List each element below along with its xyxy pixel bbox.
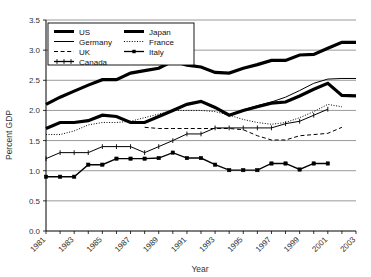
data-point-italy	[213, 163, 216, 166]
y-tick-label: 0.0	[29, 227, 41, 236]
data-point-italy	[129, 157, 132, 160]
y-axis-title: Percent GDP	[4, 110, 14, 160]
data-point-italy	[256, 168, 259, 171]
data-point-italy	[44, 175, 47, 178]
data-point-italy	[270, 162, 273, 165]
data-point-italy	[101, 163, 104, 166]
y-tick-label: 2.5	[29, 76, 41, 85]
data-point-italy	[143, 157, 146, 160]
data-point-italy	[326, 162, 329, 165]
data-point-italy	[284, 162, 287, 165]
data-point-italy	[185, 156, 188, 159]
data-point-italy	[199, 156, 202, 159]
legend-label-germany: Germany	[79, 38, 112, 47]
legend-label-japan: Japan	[149, 28, 171, 37]
data-point-italy	[298, 168, 301, 171]
chart-container: 0.00.51.01.52.02.53.03.5 198119831985198…	[0, 0, 371, 277]
data-point-italy	[171, 151, 174, 154]
legend-marker-italy	[132, 50, 135, 53]
y-tick-label: 2.0	[29, 106, 41, 115]
data-point-italy	[227, 168, 230, 171]
x-axis-title: Year	[191, 264, 208, 274]
data-point-italy	[157, 156, 160, 159]
y-tick-label: 1.5	[29, 137, 41, 146]
y-tick-label: 0.5	[29, 197, 41, 206]
y-tick-label: 1.0	[29, 167, 41, 176]
chart-legend: USJapanGermanyFranceUKItalyCanada	[48, 23, 194, 67]
data-point-italy	[242, 168, 245, 171]
data-point-italy	[115, 157, 118, 160]
legend-label-france: France	[149, 38, 174, 47]
legend-label-us: US	[79, 28, 90, 37]
y-tick-label: 3.0	[29, 46, 41, 55]
data-point-italy	[58, 175, 61, 178]
data-point-italy	[312, 162, 315, 165]
data-point-italy	[87, 163, 90, 166]
y-tick-label: 3.5	[29, 16, 41, 25]
data-point-italy	[72, 175, 75, 178]
line-chart: 0.00.51.01.52.02.53.03.5 198119831985198…	[0, 0, 371, 277]
legend-label-italy: Italy	[149, 48, 164, 57]
legend-label-uk: UK	[79, 48, 91, 57]
legend-label-canada: Canada	[79, 58, 108, 67]
